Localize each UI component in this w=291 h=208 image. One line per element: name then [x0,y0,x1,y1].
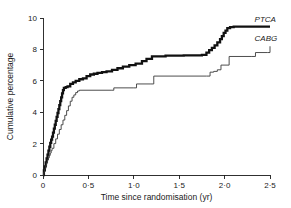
x-tick-label-1: 0·5 [83,181,95,190]
cumulative-percentage-chart: 024681000·51·01·52·02·5Time since random… [0,0,291,208]
x-tick-label-3: 1·5 [173,181,185,190]
series-curve-ptca [43,27,270,175]
y-tick-label-3: 6 [33,77,38,86]
chart-figure: 024681000·51·01·52·02·5Time since random… [0,0,291,208]
x-tick-label-0: 0 [41,181,46,190]
y-tick-label-5: 10 [28,14,37,23]
series-curve-cabg [43,46,270,175]
y-tick-label-1: 2 [33,140,38,149]
y-tick-label-4: 8 [33,45,38,54]
series-label-ptca: PTCA [255,15,276,24]
y-tick-label-2: 4 [33,108,38,117]
x-tick-label-5: 2·5 [264,181,276,190]
x-axis-title: Time since randomisation (yr) [101,192,213,202]
x-tick-label-4: 2·0 [219,181,231,190]
y-tick-label-0: 0 [33,171,38,180]
x-tick-label-2: 1·0 [128,181,140,190]
series-label-cabg: CABG [255,34,278,43]
y-axis-title: Cumulative percentage [5,53,15,141]
